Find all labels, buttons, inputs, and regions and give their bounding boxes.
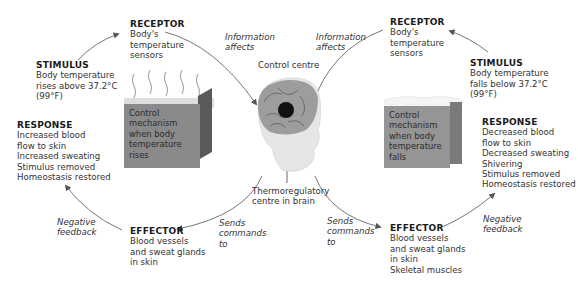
- receptor-title: RECEPTOR: [130, 19, 185, 29]
- left-commands-label: Sends commands to: [219, 218, 266, 249]
- feedback-line: feedback: [57, 227, 96, 237]
- left-response: RESPONSE Increased blood flow to skin In…: [17, 120, 111, 182]
- right-effector: EFFECTOR Blood vessels and sweat glands …: [390, 223, 466, 275]
- stimulus-line: falls below 37.2°C: [470, 79, 548, 89]
- box-side: [198, 88, 212, 160]
- left-effector: EFFECTOR Blood vessels and sweat glands …: [130, 226, 206, 268]
- stimulus-line: Body temperature: [36, 70, 117, 80]
- effector-title: EFFECTOR: [130, 226, 206, 236]
- center-label: Control centre: [258, 60, 319, 70]
- info-line: Information: [225, 32, 275, 42]
- box-line: mechanism: [129, 118, 200, 128]
- receptor-line: sensors: [390, 48, 445, 58]
- receptor-line: temperature: [130, 40, 185, 50]
- commands-line: to: [327, 237, 374, 247]
- right-receptor: RECEPTOR Body's temperature sensors: [390, 17, 445, 59]
- effector-line: in skin: [130, 257, 206, 267]
- info-line: Information: [316, 32, 366, 42]
- response-line: Decreased sweating: [482, 148, 576, 158]
- box-line: Control: [129, 108, 200, 118]
- left-stimulus: STIMULUS Body temperature rises above 37…: [36, 60, 117, 102]
- stimulus-line: Body temperature: [470, 68, 548, 78]
- effector-title: EFFECTOR: [390, 223, 466, 233]
- box-line: temperature: [389, 141, 450, 151]
- response-line: flow to skin: [17, 141, 111, 151]
- box-line: mechanism: [389, 120, 450, 130]
- box-line: Control: [389, 110, 450, 120]
- receptor-line: temperature: [390, 38, 445, 48]
- stimulus-title: STIMULUS: [36, 60, 117, 70]
- stimulus-line: rises above 37.2°C: [36, 81, 117, 91]
- receptor-title: RECEPTOR: [390, 17, 445, 27]
- commands-line: to: [219, 239, 266, 249]
- right-info-label: Information affects: [316, 32, 366, 53]
- commands-line: Sends: [219, 218, 266, 228]
- thermoregulation-diagram: Control mechanism when body temperature …: [0, 0, 578, 293]
- info-line: affects: [225, 42, 275, 52]
- left-feedback-label: Negative feedback: [57, 217, 96, 238]
- center-sublabel-line: centre in brain: [252, 196, 329, 206]
- box-line: when body: [129, 129, 200, 139]
- thermoregulatory-label: Thermoregulatory centre in brain: [252, 186, 329, 207]
- effector-line: and sweat glands: [390, 244, 466, 254]
- stimulus-line: (99°F): [470, 89, 548, 99]
- effector-line: Blood vessels: [130, 236, 206, 246]
- box-line: when body: [389, 131, 450, 141]
- effector-line: in skin: [390, 254, 466, 264]
- response-line: Stimulus removed: [17, 162, 111, 172]
- center-sublabel-line: Thermoregulatory: [252, 186, 329, 196]
- response-line: Decreased blood: [482, 127, 576, 137]
- box-line: falls: [389, 152, 450, 162]
- right-commands-label: Sends commands to: [327, 216, 374, 247]
- feedback-line: feedback: [483, 224, 522, 234]
- response-line: Increased sweating: [17, 151, 111, 161]
- right-stimulus: STIMULUS Body temperature falls below 37…: [470, 58, 548, 100]
- box-line: temperature: [129, 139, 200, 149]
- left-receptor: RECEPTOR Body's temperature sensors: [130, 19, 185, 61]
- commands-line: commands: [219, 228, 266, 238]
- response-line: Increased blood: [17, 130, 111, 140]
- receptor-line: sensors: [130, 50, 185, 60]
- box-line: rises: [129, 150, 200, 160]
- info-line: affects: [316, 42, 366, 52]
- response-line: flow to skin: [482, 138, 576, 148]
- brain-head-illustration: [248, 70, 328, 180]
- commands-line: Sends: [327, 216, 374, 226]
- receptor-line: Body's: [390, 27, 445, 37]
- effector-line: and sweat glands: [130, 247, 206, 257]
- effector-line: Blood vessels: [390, 233, 466, 243]
- feedback-line: Negative: [57, 217, 96, 227]
- response-title: RESPONSE: [17, 120, 111, 130]
- receptor-line: Body's: [130, 29, 185, 39]
- response-line: Stimulus removed: [482, 169, 576, 179]
- response-line: Homeostasis restored: [482, 179, 576, 189]
- control-box-falls: Control mechanism when body temperature …: [384, 106, 464, 168]
- response-line: Shivering: [482, 159, 576, 169]
- stimulus-line: (99°F): [36, 91, 117, 101]
- right-response: RESPONSE Decreased blood flow to skin De…: [482, 117, 576, 190]
- commands-line: commands: [327, 226, 374, 236]
- box-side: [450, 102, 462, 164]
- control-box-rises: Control mechanism when body temperature …: [124, 104, 214, 168]
- response-title: RESPONSE: [482, 117, 576, 127]
- right-feedback-label: Negative feedback: [483, 214, 522, 235]
- stimulus-title: STIMULUS: [470, 58, 548, 68]
- control-centre-label: Control centre: [258, 60, 319, 70]
- control-box-text-falls: Control mechanism when body temperature …: [384, 106, 450, 168]
- effector-line: Skeletal muscles: [390, 265, 466, 275]
- response-line: Homeostasis restored: [17, 172, 111, 182]
- feedback-line: Negative: [483, 214, 522, 224]
- left-info-label: Information affects: [225, 32, 275, 53]
- control-box-text-rises: Control mechanism when body temperature …: [124, 104, 200, 168]
